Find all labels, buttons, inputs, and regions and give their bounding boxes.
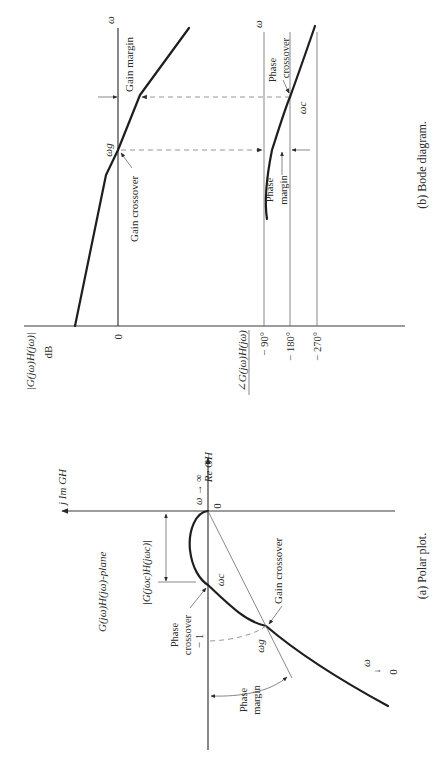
polar-phase-crossover-line2: crossover xyxy=(182,614,193,655)
polar-phase-crossover-pointer xyxy=(190,588,206,608)
phase-tick-minus-180: − 180° xyxy=(285,332,296,361)
polar-caption: (a) Polar plot. xyxy=(415,533,429,599)
polar-minus-one-label: − 1 xyxy=(193,634,205,648)
bode-phase-axis-label: ∠G(jω)H(jω) xyxy=(236,330,249,392)
control-figure: ω Gain margin ωg Gain crossover |G(jω)H(… xyxy=(0,0,445,764)
polar-omega-g-label: ωg xyxy=(254,639,266,653)
bode-omega-g-label: ωg xyxy=(102,143,114,157)
polar-omega-c-label: ωc xyxy=(214,574,226,587)
polar-omega-infinity: ω → ∞ xyxy=(193,474,204,505)
polar-gain-crossover-pointer xyxy=(269,606,282,624)
polar-omega-zero-0: 0 xyxy=(387,669,399,675)
polar-phase-margin-line2: margin xyxy=(251,684,262,714)
polar-omega-zero-arrow: ↓ xyxy=(372,669,382,674)
polar-phase-crossover-line1: Phase xyxy=(169,622,180,647)
bode-phase-crossover-pointer xyxy=(283,80,289,93)
phase-tick-minus-90: − 90° xyxy=(259,332,270,355)
bode-omega-c-label: ωc xyxy=(296,102,308,115)
bode-phase-margin-line1: Phase xyxy=(264,177,275,202)
phase-tick-minus-270: − 270° xyxy=(312,332,323,361)
bode-phase-margin-line2: margin xyxy=(278,174,289,204)
bode-phase-crossover-line2: crossover xyxy=(280,37,291,78)
unit-circle-arc xyxy=(210,626,266,641)
gain-margin-label: Gain margin xyxy=(123,36,135,92)
nyquist-curve xyxy=(190,511,388,706)
bode-phase-omega-label: ω xyxy=(252,20,264,28)
polar-plane-label: G(jω)H(jω)-plane xyxy=(96,552,109,632)
bode-zero-tick: 0 xyxy=(112,334,124,340)
bode-magnitude-omega-label: ω xyxy=(104,16,116,24)
bode-magnitude-axis-label: |G(jω)H(jω)| xyxy=(24,332,37,390)
bode-phase-crossover-line1: Phase xyxy=(267,57,278,82)
polar-gain-crossover-label: Gain crossover xyxy=(272,537,284,604)
polar-phase-margin-arc xyxy=(211,677,287,696)
polar-imag-axis-label: j Im GH xyxy=(56,468,68,507)
bode-diagram: ω Gain margin ωg Gain crossover |G(jω)H(… xyxy=(24,16,429,395)
gain-crossover-label: Gain crossover xyxy=(128,175,140,242)
polar-omega-zero-w: ω xyxy=(360,659,372,667)
gain-crossover-pointer xyxy=(121,153,132,168)
polar-origin-label: 0 xyxy=(211,503,223,509)
polar-plot: j Im GH Re GH ω → ∞ 0 G(jω)H(jω)-plane |… xyxy=(56,451,429,750)
bode-magnitude-unit: dB xyxy=(42,346,54,359)
polar-magnitude-label: |G(jωc)H(jωc)| xyxy=(141,540,153,605)
bode-caption: (b) Bode diagram. xyxy=(415,121,429,209)
polar-phase-margin-line1: Phase xyxy=(238,687,249,712)
